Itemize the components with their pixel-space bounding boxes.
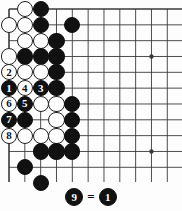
diagram-caption: 9 = 1	[0, 182, 182, 211]
caption-move-stone: 9	[65, 188, 83, 206]
stone-white	[48, 96, 64, 112]
stone-black	[48, 143, 64, 159]
numbered-stone-3: 3	[33, 80, 49, 96]
stone-black	[48, 48, 64, 64]
stone-number-label: 6	[6, 98, 12, 109]
stone-black	[48, 80, 64, 96]
stone-white	[17, 17, 33, 33]
stone-black	[33, 1, 49, 17]
caption-equals-sign: =	[86, 189, 95, 205]
stone-number-label: 1	[6, 82, 12, 93]
numbered-stone-8: 8	[1, 128, 17, 144]
stone-black	[48, 64, 64, 80]
stone-white	[17, 33, 33, 49]
stone-white	[48, 128, 64, 144]
stone-white	[33, 96, 49, 112]
stone-white	[33, 64, 49, 80]
stone-number-label: 8	[6, 130, 12, 141]
stone-number-label: 7	[6, 114, 12, 125]
stone-number-label: 4	[22, 82, 28, 93]
stone-black	[48, 33, 64, 49]
stone-black	[33, 143, 49, 159]
stone-white	[17, 1, 33, 17]
go-board[interactable]: 21436578	[0, 0, 182, 182]
stone-white	[1, 17, 17, 33]
stone-number-label: 5	[22, 98, 28, 109]
stone-white	[17, 128, 33, 144]
stone-number-label: 3	[38, 82, 44, 93]
stone-white	[48, 112, 64, 128]
numbered-stone-7: 7	[1, 112, 17, 128]
stone-number-label: 2	[6, 66, 12, 77]
stone-white	[33, 33, 49, 49]
numbered-stone-6: 6	[1, 96, 17, 112]
numbered-stone-4: 4	[17, 80, 33, 96]
stone-black	[33, 17, 49, 33]
stone-black	[33, 48, 49, 64]
stone-black	[17, 48, 33, 64]
go-diagram: 21436578 9 = 1	[0, 0, 182, 211]
stone-white	[33, 128, 49, 144]
caption-target-stone: 1	[99, 188, 117, 206]
stone-black	[17, 112, 33, 128]
stone-black	[64, 143, 80, 159]
numbered-stone-5: 5	[17, 96, 33, 112]
stone-black	[64, 128, 80, 144]
stone-white	[1, 48, 17, 64]
